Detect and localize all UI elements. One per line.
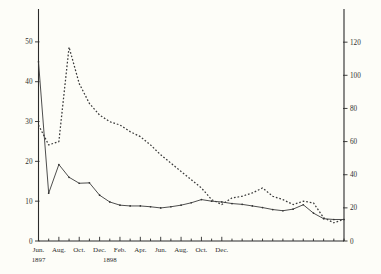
data-point-marker bbox=[99, 194, 101, 196]
data-point-marker bbox=[139, 205, 141, 207]
y-tick-label-left: 20 bbox=[25, 158, 33, 166]
x-tick-label: Aug. bbox=[174, 246, 188, 254]
data-point-marker bbox=[68, 176, 70, 178]
data-point-marker bbox=[302, 204, 304, 206]
x-tick-label: Feb. bbox=[114, 246, 127, 254]
data-point-marker bbox=[333, 219, 335, 221]
x-year-label: 1897 bbox=[32, 256, 46, 263]
data-point-marker bbox=[292, 208, 294, 210]
data-point-marker bbox=[231, 203, 233, 205]
y-tick-label-right: 0 bbox=[350, 238, 354, 246]
x-tick-label: Apr. bbox=[134, 246, 147, 254]
series-solid-line bbox=[39, 62, 345, 220]
data-point-marker bbox=[221, 201, 223, 203]
data-point-marker bbox=[252, 205, 254, 207]
y-tick-label-left: 10 bbox=[25, 198, 33, 206]
chart-figure: 01020304050020406080100120Jun.Aug.Oct.De… bbox=[0, 0, 381, 274]
data-point-marker bbox=[89, 182, 91, 184]
data-point-marker bbox=[190, 202, 192, 204]
data-point-marker bbox=[78, 182, 80, 184]
data-point-marker bbox=[170, 206, 172, 208]
data-point-marker bbox=[160, 207, 162, 209]
y-tick-label-left: 0 bbox=[29, 238, 33, 246]
data-point-marker bbox=[150, 206, 152, 208]
data-point-marker bbox=[180, 204, 182, 206]
y-tick-label-right: 20 bbox=[350, 204, 358, 212]
x-tick-label: Oct. bbox=[73, 246, 85, 254]
y-tick-label-left: 50 bbox=[25, 38, 33, 46]
data-point-marker bbox=[282, 210, 284, 212]
x-tick-label: Jun. bbox=[33, 246, 45, 254]
y-tick-label-right: 100 bbox=[350, 72, 361, 80]
data-point-marker bbox=[201, 199, 203, 201]
data-point-marker bbox=[211, 200, 213, 202]
data-point-marker bbox=[38, 61, 40, 63]
x-tick-label: Dec. bbox=[93, 246, 106, 254]
data-point-marker bbox=[262, 207, 264, 209]
data-point-marker bbox=[313, 212, 315, 214]
x-tick-label: Dec. bbox=[215, 246, 228, 254]
y-tick-label-right: 120 bbox=[350, 39, 361, 47]
x-tick-label: Jun. bbox=[155, 246, 167, 254]
y-tick-label-left: 30 bbox=[25, 118, 33, 126]
data-point-marker bbox=[109, 201, 111, 203]
line-chart-svg: 01020304050020406080100120Jun.Aug.Oct.De… bbox=[0, 0, 381, 274]
data-point-marker bbox=[48, 192, 50, 194]
x-tick-label: Oct. bbox=[196, 246, 208, 254]
y-tick-label-right: 80 bbox=[350, 105, 358, 113]
data-point-marker bbox=[129, 205, 131, 207]
x-tick-label: Aug. bbox=[52, 246, 66, 254]
data-point-marker bbox=[119, 204, 121, 206]
series-dashed-line bbox=[39, 47, 345, 223]
y-tick-label-right: 40 bbox=[350, 171, 358, 179]
y-tick-label-left: 40 bbox=[25, 78, 33, 86]
data-point-marker bbox=[272, 209, 274, 211]
data-point-marker bbox=[241, 204, 243, 206]
data-point-marker bbox=[58, 164, 60, 166]
y-tick-label-right: 60 bbox=[350, 138, 358, 146]
chart-series bbox=[38, 47, 345, 223]
chart-tick-labels: 01020304050020406080100120Jun.Aug.Oct.De… bbox=[25, 38, 361, 263]
x-year-label: 1898 bbox=[103, 256, 117, 263]
